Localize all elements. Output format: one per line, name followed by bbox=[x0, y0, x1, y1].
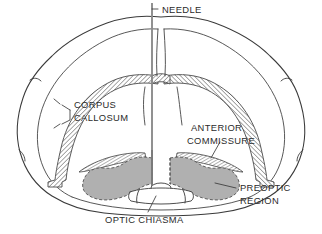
diagram-canvas: NEEDLE CORPUS CALLOSUM ANTERIOR COMMISSU… bbox=[0, 0, 322, 234]
label-corpus-callosum-line1: CORPUS bbox=[74, 99, 116, 110]
label-anterior-commissure-line1: ANTERIOR bbox=[191, 122, 242, 133]
label-needle: NEEDLE bbox=[162, 4, 202, 15]
label-preoptic-region-line1: PREOPTIC bbox=[240, 182, 291, 193]
label-corpus-callosum-line2: CALLOSUM bbox=[74, 112, 128, 123]
label-optic-chiasma: OPTIC CHIASMA bbox=[105, 214, 184, 225]
brain-coronal-section-figure: NEEDLE CORPUS CALLOSUM ANTERIOR COMMISSU… bbox=[0, 0, 322, 234]
label-anterior-commissure-line2: COMMISSURE bbox=[187, 135, 255, 146]
label-preoptic-region-line2: REGION bbox=[240, 195, 279, 206]
